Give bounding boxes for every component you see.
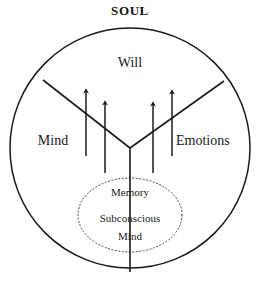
- inner-label-memory: Memory: [80, 186, 180, 198]
- region-label-emotions: Emotions: [176, 133, 250, 149]
- soul-diagram: SOUL Will Mind Emotions Memory Subconsci…: [0, 0, 260, 284]
- inner-label-subconscious-mind: Mind: [80, 230, 180, 242]
- inner-label-subconscious: Subconscious: [72, 212, 188, 224]
- region-label-will: Will: [0, 55, 260, 71]
- region-label-mind: Mind: [22, 133, 84, 149]
